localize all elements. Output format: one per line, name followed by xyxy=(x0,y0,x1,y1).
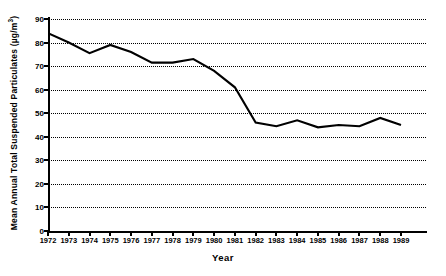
x-tick-label: 1972 xyxy=(40,236,57,245)
y-tick-mark xyxy=(44,136,49,138)
y-tick-label: 90 xyxy=(35,15,44,24)
x-tick-label: 1976 xyxy=(123,236,140,245)
x-tick-label: 1974 xyxy=(81,236,98,245)
series-line xyxy=(48,19,426,231)
y-tick-mark xyxy=(44,65,49,67)
y-tick-label: 40 xyxy=(35,132,44,141)
x-tick-label: 1973 xyxy=(60,236,77,245)
gridline-y xyxy=(48,66,426,67)
x-tick-label: 1981 xyxy=(227,236,244,245)
x-tick-label: 1979 xyxy=(185,236,202,245)
x-tick-label: 1983 xyxy=(268,236,285,245)
y-tick-mark xyxy=(44,18,49,20)
y-axis-tick-labels: 0102030405060708090 xyxy=(24,0,46,246)
x-tick-label: 1985 xyxy=(310,236,327,245)
y-axis-title-exponent: 3 xyxy=(7,19,14,23)
y-tick-mark xyxy=(44,183,49,185)
y-tick-mark xyxy=(44,206,49,208)
plot-area xyxy=(48,19,426,231)
x-axis-title: Year xyxy=(0,252,446,263)
x-tick-label: 1987 xyxy=(351,236,368,245)
y-axis-title: Mean Annual Total Suspended Particulates… xyxy=(0,0,26,246)
gridline-y xyxy=(48,160,426,161)
gridline-y xyxy=(48,184,426,185)
y-tick-label: 70 xyxy=(35,62,44,71)
x-tick-label: 1978 xyxy=(164,236,181,245)
x-tick-label: 1984 xyxy=(289,236,306,245)
y-tick-label: 80 xyxy=(35,38,44,47)
x-tick-label: 1975 xyxy=(102,236,119,245)
x-tick-label: 1980 xyxy=(206,236,223,245)
y-axis-title-paren: ) xyxy=(9,16,19,19)
y-tick-mark xyxy=(44,42,49,44)
chart-figure: Mean Annual Total Suspended Particulates… xyxy=(0,0,446,276)
gridline-y xyxy=(48,90,426,91)
gridline-y xyxy=(48,137,426,138)
y-tick-mark xyxy=(44,112,49,114)
y-tick-label: 10 xyxy=(35,203,44,212)
y-tick-label: 60 xyxy=(35,85,44,94)
x-tick-label: 1982 xyxy=(247,236,264,245)
x-axis-line xyxy=(48,231,427,233)
y-tick-label: 50 xyxy=(35,109,44,118)
y-tick-mark xyxy=(44,159,49,161)
y-tick-label: 30 xyxy=(35,156,44,165)
x-tick-label: 1989 xyxy=(393,236,410,245)
x-tick-label: 1977 xyxy=(143,236,160,245)
y-axis-title-text: Mean Annual Total Suspended Particulates… xyxy=(7,16,19,231)
x-tick-label: 1988 xyxy=(372,236,389,245)
gridline-y xyxy=(48,43,426,44)
gridline-y xyxy=(48,113,426,114)
gridline-y xyxy=(48,207,426,208)
y-tick-mark xyxy=(44,89,49,91)
gridline-y xyxy=(48,19,426,20)
x-tick-label: 1986 xyxy=(330,236,347,245)
y-axis-title-main: Mean Annual Total Suspended Particulates… xyxy=(9,23,19,231)
y-tick-label: 20 xyxy=(35,179,44,188)
